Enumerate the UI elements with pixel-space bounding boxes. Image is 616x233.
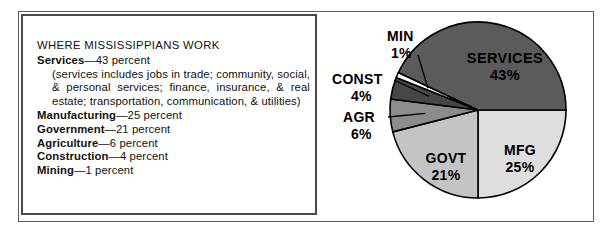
caption-note-line2-w1: & [52, 81, 60, 95]
caption-note-line2-w4: finance, [169, 81, 209, 95]
caption-title: WHERE MISSISSIPPIANS WORK [37, 39, 307, 53]
caption-item-agriculture-dash: — [98, 137, 109, 149]
slice-label-govt: GOVT [426, 150, 467, 166]
caption-note-line2-w3: services; [117, 81, 162, 95]
caption-item-services: Services—43 percent [37, 54, 307, 68]
caption-item-mining-value: 1 percent [85, 164, 133, 176]
caption-item-services-dash: — [84, 54, 95, 66]
callout-value-min: 1% [391, 45, 412, 61]
caption-item-government: Government—21 percent [37, 123, 307, 137]
caption-item-government-dash: — [105, 123, 116, 135]
caption-item-manufacturing-value: 25 percent [128, 109, 182, 121]
caption-item-services-name: Services [37, 54, 84, 66]
caption-item-mining: Mining—1 percent [37, 164, 307, 178]
callout-label-agr: AGR [343, 109, 375, 125]
caption-text-block: WHERE MISSISSIPPIANS WORK Services—43 pe… [37, 39, 307, 178]
caption-item-agriculture-value: 6 percent [110, 137, 158, 149]
caption-note-line2: & personal services; finance, insurance,… [52, 81, 310, 95]
slice-value-govt: 21% [432, 167, 461, 183]
caption-item-agriculture-name: Agriculture [37, 137, 98, 149]
caption-note-line2-w2: personal [66, 81, 110, 95]
caption-box: WHERE MISSISSIPPIANS WORK Services—43 pe… [21, 14, 317, 215]
caption-item-services-value: 43 percent [96, 54, 150, 66]
caption-note-line3: estate; transportation, communication, &… [52, 95, 310, 109]
caption-item-manufacturing-dash: — [116, 109, 127, 121]
caption-item-government-name: Government [37, 123, 105, 135]
slice-value-services: 43% [490, 67, 520, 83]
slice-value-mfg: 25% [506, 159, 535, 175]
caption-item-government-value: 21 percent [116, 123, 170, 135]
caption-item-construction-name: Construction [37, 150, 109, 162]
caption-item-construction-dash: — [109, 150, 120, 162]
callout-label-min: MIN [387, 28, 414, 44]
pie-slice-group [390, 22, 566, 198]
caption-item-mining-dash: — [74, 164, 85, 176]
caption-note: (services includes jobs in trade; commun… [37, 68, 310, 109]
slice-label-mfg: MFG [504, 142, 536, 158]
caption-item-mining-name: Mining [37, 164, 74, 176]
figure-panel: WHERE MISSISSIPPIANS WORK Services—43 pe… [0, 0, 616, 233]
pie-chart-svg: SERVICES 43% MFG 25% GOVT 21% MIN 1% CON… [330, 0, 616, 233]
caption-item-construction: Construction—4 percent [37, 150, 307, 164]
slice-label-services: SERVICES [467, 50, 543, 66]
pie-chart: SERVICES 43% MFG 25% GOVT 21% MIN 1% CON… [330, 0, 616, 233]
caption-item-construction-value: 4 percent [120, 150, 168, 162]
callout-label-const: CONST [332, 71, 383, 87]
caption-item-manufacturing-name: Manufacturing [37, 109, 116, 121]
caption-note-line1: (services includes jobs in trade; commun… [52, 68, 310, 82]
caption-item-agriculture: Agriculture—6 percent [37, 137, 307, 151]
caption-item-manufacturing: Manufacturing—25 percent [37, 109, 307, 123]
caption-note-line2-w5: insurance, [217, 81, 270, 95]
caption-note-line2-w7: real [291, 81, 310, 95]
caption-note-line2-w6: & [276, 81, 284, 95]
callout-value-agr: 6% [351, 126, 372, 142]
callout-value-const: 4% [351, 88, 372, 104]
